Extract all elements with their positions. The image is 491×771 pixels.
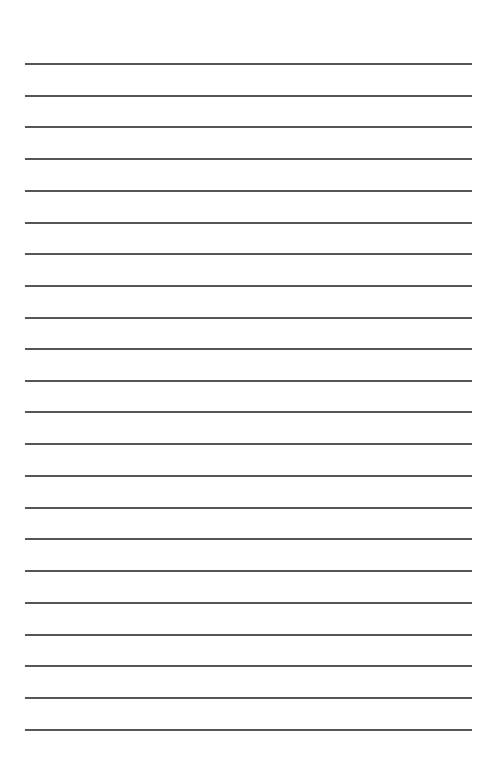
ruled-line — [25, 190, 472, 192]
ruled-line — [25, 570, 472, 572]
ruled-line — [25, 348, 472, 350]
ruled-line — [25, 285, 472, 287]
ruled-line — [25, 507, 472, 509]
lined-page — [0, 0, 491, 771]
ruled-line — [25, 380, 472, 382]
ruled-line — [25, 158, 472, 160]
ruled-line — [25, 253, 472, 255]
ruled-line — [25, 538, 472, 540]
ruled-line — [25, 95, 472, 97]
ruled-line — [25, 126, 472, 128]
ruled-line — [25, 665, 472, 667]
ruled-line — [25, 634, 472, 636]
ruled-line — [25, 317, 472, 319]
ruled-line — [25, 63, 472, 65]
ruled-line — [25, 729, 472, 731]
ruled-line — [25, 222, 472, 224]
ruled-line — [25, 443, 472, 445]
ruled-line — [25, 411, 472, 413]
ruled-line — [25, 602, 472, 604]
ruled-line — [25, 475, 472, 477]
ruled-line — [25, 697, 472, 699]
